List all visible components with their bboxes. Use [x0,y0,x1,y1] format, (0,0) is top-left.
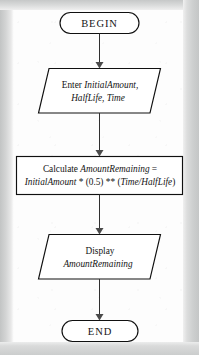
end-label: END [88,326,112,337]
input-line-2: HalfLife, Time [70,93,125,103]
process-line-1: Calculate AmountRemaining = [43,164,157,174]
input-keyword: Enter [62,80,84,90]
arrowhead-down-icon [96,62,104,69]
arrowhead-down-icon [96,228,104,235]
flowchart-diagram: BEGIN Enter InitialAmount, HalfLife, Tim… [0,0,199,355]
arrowhead-down-icon [96,150,104,157]
output-keyword: Display [86,246,115,256]
process-expression-end: ) [172,177,175,188]
process-keyword: Calculate [43,164,80,174]
node-end[interactable]: END [62,321,138,342]
node-begin[interactable]: BEGIN [60,13,139,34]
output-variable: AmountRemaining [62,259,133,269]
node-input[interactable]: Enter InitialAmount, HalfLife, Time [39,69,161,114]
arrowhead-down-icon [96,314,104,321]
process-operator: = [150,164,158,174]
connector-input-to-process [96,113,104,157]
process-var-exponent: Time/HalfLife [121,177,173,187]
node-process[interactable]: Calculate AmountRemaining = InitialAmoun… [17,157,183,195]
connector-process-to-output [96,195,104,235]
flowchart-page: BEGIN Enter InitialAmount, HalfLife, Tim… [0,0,199,355]
begin-label: BEGIN [81,18,118,29]
process-rectangle-shape [17,157,183,195]
connector-begin-to-input [96,34,104,69]
node-output[interactable]: Display AmountRemaining [39,235,161,280]
input-vars-1: InitialAmount, [83,80,138,90]
process-var-initial: InitialAmount [24,177,77,187]
connector-output-to-end [96,279,104,321]
process-line-2: InitialAmount * (0.5) ** (Time/HalfLife) [24,177,176,188]
process-expression-mid: * (0.5) ** ( [76,177,120,188]
input-parallelogram-shape [39,69,161,114]
output-parallelogram-shape [39,235,161,280]
process-var-result: AmountRemaining [79,164,150,174]
input-line-1: Enter InitialAmount, [62,80,138,90]
